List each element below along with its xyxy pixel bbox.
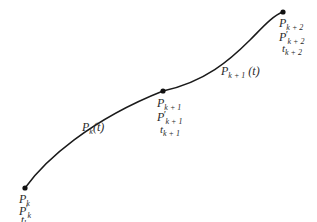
segment-k-label: Pk(t) (82, 121, 104, 136)
control-point-k1 (160, 88, 165, 93)
param-k2-label: tk + 2 (282, 43, 302, 57)
param-subscript: k (24, 219, 28, 222)
param-subscript: k + 2 (285, 48, 302, 57)
tangent-subscript: k (28, 211, 32, 220)
control-point-k2 (280, 9, 285, 14)
segment-k1-label: Pk + 1 (t) (221, 65, 260, 80)
param-subscript: k + 1 (163, 129, 180, 138)
segment-argument: (t) (245, 64, 259, 78)
segment-argument: (t) (93, 120, 104, 134)
control-point-k (22, 185, 27, 190)
curve-segment-k (25, 91, 163, 188)
param-k-label: tk (21, 214, 28, 222)
param-k1-label: tk + 1 (160, 124, 180, 138)
segment-subscript: k + 1 (228, 71, 245, 80)
